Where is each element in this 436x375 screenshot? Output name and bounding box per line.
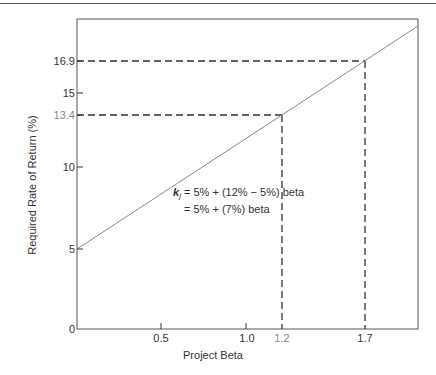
x-axis-label: Project Beta (183, 349, 244, 361)
equation-line-2: = 5% + (7%) beta (184, 203, 270, 215)
y-tick-15: 15 (63, 87, 75, 99)
y-tick-16-9: 16.9 (54, 55, 75, 67)
equation-line-1: kj = 5% + (12% − 5%) beta (173, 186, 305, 200)
y-axis-label: Required Rate of Return (%) (26, 115, 38, 254)
y-tick-10: 10 (63, 161, 75, 173)
y-tick-5: 5 (69, 243, 75, 255)
security-market-line (77, 26, 418, 249)
x-tick-1-2: 1.2 (274, 332, 289, 344)
x-tick-0-5: 0.5 (153, 332, 168, 344)
x-tick-marks (161, 323, 246, 329)
plot-frame (77, 19, 418, 329)
y-tick-marks (77, 61, 83, 249)
x-tick-1-7: 1.7 (357, 332, 372, 344)
y-tick-0: 0 (69, 323, 75, 335)
y-tick-13-4: 13.4 (54, 109, 75, 121)
sml-chart: 16.9 15 13.4 10 5 0 0.5 1.0 1.2 1.7 Proj… (0, 0, 436, 375)
x-tick-1-0: 1.0 (239, 332, 254, 344)
